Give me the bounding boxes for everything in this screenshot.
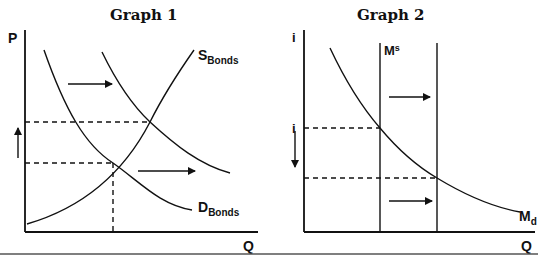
graph-2: Graph 2 i i Q Ms Md — [292, 6, 537, 254]
graph-2-y-label: i — [292, 30, 296, 45]
graph-1-title: Graph 1 — [110, 6, 178, 24]
graph-1-demand-curve-original — [44, 50, 192, 210]
graph-1-supply-label: SBonds — [198, 47, 239, 66]
graph-1-demand-label: DBonds — [198, 199, 240, 218]
graph-1-y-label: P — [8, 30, 17, 46]
graph-1-supply-curve — [27, 50, 194, 224]
figure: Graph 1 P Q SBonds DBonds Graph 2 i i Q — [0, 0, 538, 259]
graph-2-demand-label: Md — [519, 208, 537, 227]
graph-2-x-label: Q — [521, 238, 532, 254]
graph-2-title: Graph 2 — [357, 6, 425, 24]
graph-2-supply-label: Ms — [384, 43, 400, 58]
graph-1-demand-curve-shifted — [102, 52, 230, 173]
graph-1-x-label: Q — [243, 238, 254, 254]
graph-2-money-demand-curve — [330, 48, 520, 212]
graph-1: Graph 1 P Q SBonds DBonds — [8, 6, 258, 254]
